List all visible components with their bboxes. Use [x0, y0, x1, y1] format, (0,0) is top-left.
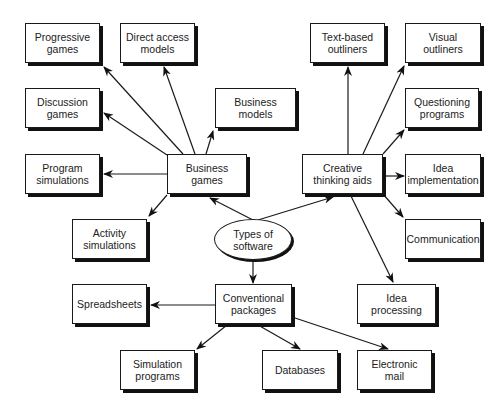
arrow-to-activity-simulations [149, 195, 167, 216]
node-creative-thinking-aids: Creative thinking aids [302, 154, 383, 194]
node-spreadsheets: Spreadsheets [72, 284, 147, 324]
arrow-to-visual-outliners [363, 66, 404, 154]
arrow-to-direct-access-models [164, 67, 195, 154]
node-activity-simulations: Activity simulations [72, 219, 147, 259]
node-visual-outliners: Visual outliners [405, 23, 481, 63]
node-program-simulations: Program simulations [25, 154, 100, 194]
node-communication: Communication [405, 219, 481, 259]
node-progressive-games: Progressive games [25, 23, 100, 63]
node-direct-access-models: Direct access models [120, 23, 195, 63]
arrow-to-questioning-programs [383, 130, 404, 154]
node-types-of-software: Types of software [214, 219, 292, 260]
node-electronic-mail: Electronic mail [357, 350, 432, 390]
node-idea-implementation: Idea implementation [405, 154, 481, 194]
arrow-types-to-business-games [210, 198, 253, 220]
node-databases: Databases [262, 350, 338, 390]
arrow-to-databases [258, 325, 300, 349]
node-business-games: Business games [167, 154, 247, 194]
arrow-to-discussion-games [104, 113, 167, 155]
arrow-to-communication [383, 194, 403, 217]
node-conventional-packages: Conventional packages [215, 284, 292, 324]
node-questioning-programs: Questioning programs [405, 88, 479, 128]
node-business-models: Business models [215, 88, 296, 128]
arrow-to-simulation-programs [197, 325, 227, 349]
arrow-to-progressive-games [104, 67, 183, 154]
node-text-based-outliners: Text-based outliners [310, 23, 385, 63]
node-simulation-programs: Simulation programs [120, 350, 195, 390]
node-discussion-games: Discussion games [25, 88, 100, 128]
arrow-to-business-models [206, 131, 213, 154]
arrow-types-to-creative-aids [258, 197, 333, 220]
arrow-to-idea-processing [350, 194, 393, 282]
node-idea-processing: Idea processing [357, 284, 436, 324]
software-types-diagram: Progressive games Direct access models D… [0, 0, 504, 414]
